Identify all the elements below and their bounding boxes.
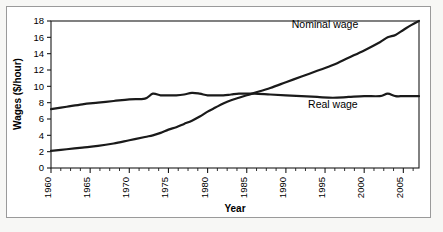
x-tick-label: 1990 (277, 177, 288, 198)
y-axis-tick-labels: 024681012141618 (33, 15, 44, 173)
series-label-real-wage: Real wage (308, 98, 358, 110)
y-tick-label: 10 (33, 81, 44, 92)
wages-line-chart: 024681012141618 196019651970197519801985… (7, 7, 430, 217)
x-tick-label: 1960 (42, 177, 53, 198)
y-tick-label: 2 (39, 146, 44, 157)
y-tick-label: 8 (39, 97, 44, 108)
y-tick-label: 12 (33, 64, 44, 75)
y-tick-label: 16 (33, 32, 44, 43)
x-axis-title: Year (224, 203, 245, 214)
x-tick-label: 1985 (238, 177, 249, 198)
y-tick-label: 0 (39, 162, 44, 173)
x-tick-label: 1980 (199, 177, 210, 198)
y-axis-ticks (47, 21, 51, 168)
x-tick-label: 1970 (120, 177, 131, 198)
series-label-nominal-wage: Nominal wage (292, 18, 359, 30)
figure-page: 024681012141618 196019651970197519801985… (0, 0, 443, 232)
x-tick-label: 2000 (355, 177, 366, 198)
x-tick-label: 2005 (394, 177, 405, 198)
y-axis-title: Wages ($/hour) (12, 58, 23, 130)
x-tick-label: 1995 (316, 177, 327, 198)
y-tick-label: 18 (33, 15, 44, 26)
x-tick-label: 1965 (81, 177, 92, 198)
x-tick-label: 1975 (159, 177, 170, 198)
y-tick-label: 14 (33, 48, 44, 59)
x-axis-tick-labels: 1960196519701975198019851990199520002005 (42, 177, 405, 198)
y-tick-label: 4 (39, 130, 44, 141)
figure-frame: 024681012141618 196019651970197519801985… (6, 6, 431, 218)
y-tick-label: 6 (39, 113, 44, 124)
